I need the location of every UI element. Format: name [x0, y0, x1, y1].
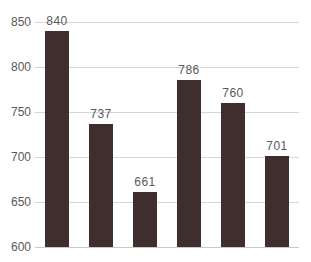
- gridline: [35, 247, 299, 248]
- y-axis-tick-label: 700: [0, 149, 31, 165]
- bar-value-label: 840: [37, 14, 77, 29]
- y-axis-tick-label: 750: [0, 104, 31, 120]
- bar-value-label: 661: [125, 175, 165, 190]
- bar: [221, 103, 245, 247]
- bar: [89, 124, 113, 247]
- gridline: [35, 112, 299, 113]
- bar: [177, 80, 201, 247]
- bar-value-label: 701: [257, 139, 297, 154]
- bar-value-label: 760: [213, 86, 253, 101]
- bar-value-label: 786: [169, 63, 209, 78]
- bar: [45, 31, 69, 247]
- bar: [265, 156, 289, 247]
- gridline: [35, 157, 299, 158]
- y-axis-tick-label: 800: [0, 59, 31, 75]
- bar-chart: 840737661786760701 600650700750800850: [0, 0, 311, 262]
- y-axis-tick-label: 650: [0, 194, 31, 210]
- bar-value-label: 737: [81, 107, 121, 122]
- y-axis-tick-label: 600: [0, 239, 31, 255]
- bar: [133, 192, 157, 247]
- y-axis-tick-label: 850: [0, 14, 31, 30]
- gridline: [35, 67, 299, 68]
- gridline: [35, 202, 299, 203]
- plot-area: 840737661786760701: [35, 22, 299, 247]
